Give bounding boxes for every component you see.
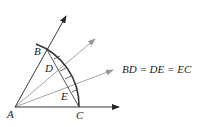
tick-mark-3 xyxy=(65,76,71,79)
ray-ad xyxy=(15,39,95,107)
ray-ab xyxy=(15,16,66,107)
label-a: A xyxy=(7,109,14,120)
label-b: B xyxy=(34,46,41,57)
label-e: E xyxy=(61,91,68,102)
arc-bc xyxy=(36,44,79,107)
label-c: C xyxy=(76,110,83,121)
equation-text: BD = DE = EC xyxy=(122,63,191,75)
label-d: D xyxy=(45,63,53,74)
